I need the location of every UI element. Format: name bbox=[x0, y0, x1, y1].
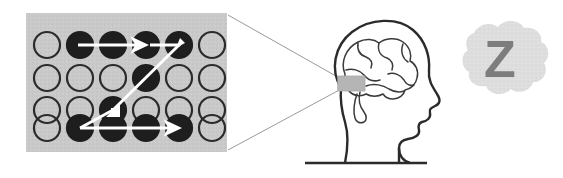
brain-sulcus-6 bbox=[366, 85, 404, 92]
brain-sulcus-5 bbox=[388, 73, 414, 85]
chin-neck-line bbox=[399, 148, 410, 163]
sleep-thought-bubble: Z bbox=[462, 21, 548, 94]
brain-illustration bbox=[338, 39, 418, 123]
hippocampus-highlight bbox=[338, 76, 365, 91]
head-profile bbox=[305, 21, 439, 163]
brain-sulcus-2 bbox=[378, 43, 392, 70]
memory-replay-figure: Z bbox=[0, 0, 563, 178]
neuron-grid-panel bbox=[26, 13, 227, 152]
callout-line-top bbox=[228, 15, 343, 80]
callout-line-bottom bbox=[228, 88, 343, 150]
brain-sulcus-1 bbox=[358, 43, 372, 68]
callout-lines bbox=[228, 15, 343, 150]
figure-canvas: Z bbox=[0, 0, 563, 178]
brainstem-cerebellum bbox=[354, 92, 366, 123]
sleep-z-letter: Z bbox=[484, 30, 516, 88]
